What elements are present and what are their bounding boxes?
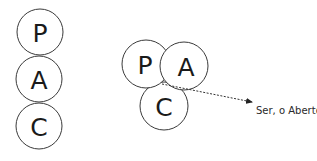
- clustered-circles: C P A Ser, o Aberto: [122, 40, 317, 130]
- annotation-ser-o-aberto: Ser, o Aberto: [256, 105, 317, 116]
- stack-circle-a: A: [16, 56, 62, 102]
- stack-circle-p: P: [17, 9, 63, 55]
- stacked-circles: P A C: [16, 9, 63, 149]
- stack-label-a: A: [30, 66, 47, 95]
- cluster-label-p: P: [137, 51, 152, 80]
- pac-diagram: P A C C P A Ser, o Aberto: [0, 0, 317, 161]
- stack-label-p: P: [32, 19, 47, 48]
- stack-label-c: C: [30, 113, 47, 142]
- cluster-circle-a: A: [160, 42, 208, 90]
- cluster-label-c: C: [155, 93, 172, 122]
- cluster-label-a: A: [177, 53, 194, 82]
- stack-circle-c: C: [16, 103, 62, 149]
